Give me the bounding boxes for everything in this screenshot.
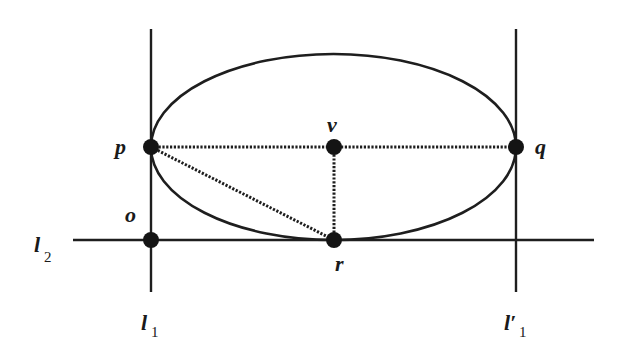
point-o xyxy=(143,232,159,248)
label-l1-prime-sub: 1 xyxy=(519,324,527,340)
label-r: r xyxy=(335,251,344,276)
point-p xyxy=(143,139,159,155)
label-l1-prime: l′ 1 xyxy=(504,310,527,340)
point-r xyxy=(326,232,342,248)
label-v: v xyxy=(327,112,337,137)
label-l2: l 2 xyxy=(34,232,52,265)
label-p: p xyxy=(113,134,126,159)
label-l1-prime-main: l′ xyxy=(504,310,516,335)
label-l1-sub: 1 xyxy=(151,324,159,340)
label-l2-sub: 2 xyxy=(44,249,52,265)
label-l1: l 1 xyxy=(141,310,159,340)
point-v xyxy=(326,139,342,155)
label-q: q xyxy=(535,134,546,159)
label-l2-main: l xyxy=(34,232,41,257)
label-o: o xyxy=(125,202,136,227)
point-q xyxy=(508,139,524,155)
label-l1-main: l xyxy=(141,310,148,335)
ellipse-tangent-diagram: p v q o r l 2 l 1 l′ 1 xyxy=(0,0,622,359)
segment-p-r xyxy=(151,147,334,240)
